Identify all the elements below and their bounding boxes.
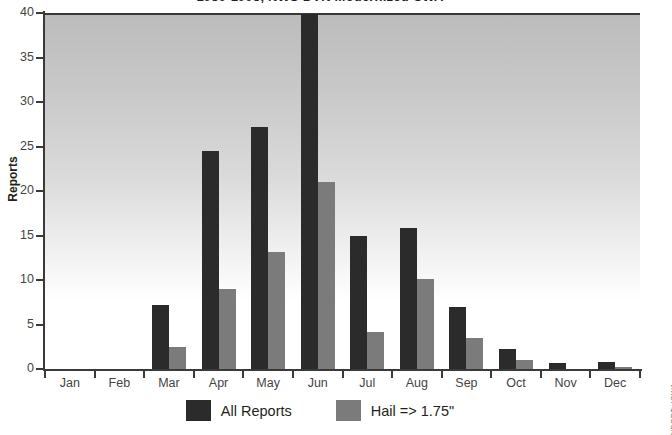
bar-group-mar [152,13,186,369]
bar-aug-all-reports [400,228,417,369]
bar-group-jul [350,13,384,369]
y-tick-label: 5 [0,318,34,331]
bar-group-jan [53,13,87,369]
bar-group-jun [301,13,335,369]
bar-nov-all-reports [549,363,566,369]
bar-sep-hail [466,338,483,369]
bar-group-feb [102,13,136,369]
y-tick-mark [36,146,44,148]
legend-swatch-icon [336,400,361,421]
y-tick-mark [36,190,44,192]
y-tick-label: 0 [0,362,34,375]
x-tick-label-dec: Dec [585,376,645,390]
y-tick-mark [36,279,44,281]
bar-oct-all-reports [499,349,516,369]
bar-mar-hail [169,347,186,369]
y-tick-mark [36,57,44,59]
bar-group-aug [400,13,434,369]
y-tick-label: 25 [0,140,34,153]
legend-item-hail: Hail => 1.75" [336,400,454,421]
bar-jun-all-reports [301,14,318,369]
bar-sep-all-reports [449,307,466,369]
y-tick-mark [36,101,44,103]
bar-group-may [251,13,285,369]
bar-aug-hail [417,279,434,369]
bar-may-hail [268,252,285,369]
legend-item-all-reports: All Reports [186,400,292,421]
y-tick-label: 30 [0,95,34,108]
legend-label: All Reports [221,403,292,419]
bar-dec-hail [615,367,632,369]
legend-label: Hail => 1.75" [371,403,454,419]
bar-group-nov [549,13,583,369]
chart-legend: All ReportsHail => 1.75" [0,400,640,421]
bar-mar-all-reports [152,305,169,369]
bar-group-dec [598,13,632,369]
y-tick-label: 20 [0,184,34,197]
y-tick-mark [36,324,44,326]
bar-apr-hail [219,289,236,369]
bar-group-sep [449,13,483,369]
y-tick-label: 10 [0,273,34,286]
bar-group-oct [499,13,533,369]
bar-jul-all-reports [350,236,367,369]
y-tick-mark [36,12,44,14]
bar-group-apr [202,13,236,369]
y-tick-mark [36,368,44,370]
chart-figure: 1950-1995, NWS DVN Modernized CWA Report… [0,0,672,435]
chart-title: 1950-1995, NWS DVN Modernized CWA [0,0,640,4]
y-tick-label: 15 [0,229,34,242]
bars-layer [45,13,640,369]
y-tick-mark [36,235,44,237]
bar-jul-hail [367,332,384,369]
legend-swatch-icon [186,400,211,421]
bar-apr-all-reports [202,151,219,369]
bar-jun-hail [318,182,335,369]
y-tick-label: 35 [0,51,34,64]
bar-dec-all-reports [598,362,615,369]
bar-oct-hail [516,360,533,369]
y-tick-label: 40 [0,6,34,19]
y-axis-title: Reports [6,144,20,214]
bar-may-all-reports [251,127,268,369]
